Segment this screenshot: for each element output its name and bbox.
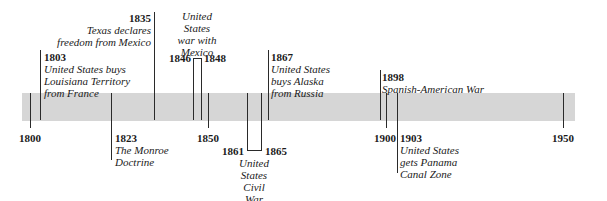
- axis-label-1950: 1950: [552, 132, 574, 144]
- event-year-1898: 1898: [382, 71, 404, 83]
- axis-label-1850: 1850: [197, 132, 219, 144]
- marker-1846: [193, 58, 194, 120]
- event-year-1861: 1861: [222, 145, 244, 157]
- marker-1903: [397, 93, 398, 173]
- event-text-1861-1865: United States Civil War: [226, 157, 282, 201]
- marker-1835: [154, 12, 155, 120]
- bracket-1861-1865: [247, 150, 262, 151]
- marker-1867: [268, 50, 269, 120]
- event-text-1803: United States buys Louisiana Territory f…: [44, 63, 130, 99]
- event-year-1803: 1803: [44, 51, 66, 63]
- event-year-1848: 1848: [204, 52, 226, 64]
- tick-1900: [386, 93, 387, 128]
- bracket-1846-1848: [193, 58, 201, 59]
- event-year-1867: 1867: [271, 51, 293, 63]
- tick-1800: [30, 93, 31, 128]
- event-text-1867: United States buys Alaska from Russia: [271, 63, 330, 99]
- axis-label-1800: 1800: [19, 132, 41, 144]
- event-year-1865: 1865: [265, 145, 287, 157]
- axis-label-1900: 1900: [374, 132, 396, 144]
- event-text-1823: The Monroe Doctrine: [115, 144, 169, 168]
- event-year-1846: 1846: [169, 52, 191, 64]
- marker-1865: [261, 93, 262, 150]
- marker-1803: [40, 50, 41, 120]
- event-year-1823: 1823: [115, 132, 137, 144]
- event-year-1835: 1835: [129, 12, 151, 24]
- event-year-1903: 1903: [400, 132, 422, 144]
- marker-1861: [247, 93, 248, 150]
- marker-1848: [201, 58, 202, 120]
- event-text-1846-1848: United States war with Mexico: [167, 10, 227, 58]
- tick-1850: [208, 93, 209, 128]
- event-text-1903: United States gets Panama Canal Zone: [400, 144, 459, 180]
- tick-1950: [563, 93, 564, 128]
- event-text-1835: Texas declares freedom from Mexico: [57, 24, 151, 48]
- marker-1823: [111, 93, 112, 160]
- marker-1898: [380, 70, 381, 120]
